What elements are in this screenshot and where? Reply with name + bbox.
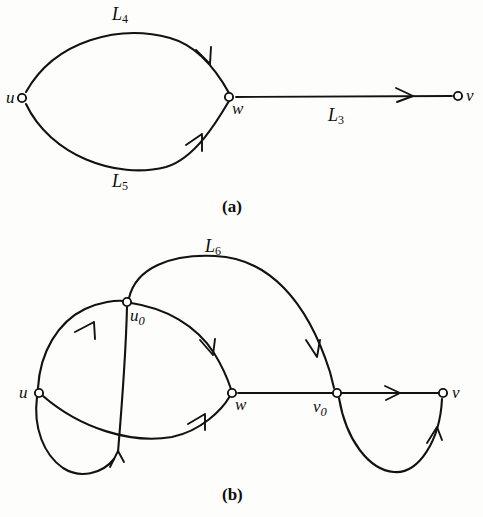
edge-lower-arc-to-w-path <box>43 396 230 439</box>
node-label-v-a: v <box>466 87 474 104</box>
node-u-a[interactable] <box>18 94 26 102</box>
panel-caption-b: (b) <box>222 486 243 503</box>
edge-label-L6: L6 <box>205 237 221 257</box>
node-label-u-b: u <box>19 384 28 401</box>
figure-root: u w v L4 L5 L3 (a) u u0 w v0 v L6 (b) <box>0 0 483 517</box>
panel-b-graph <box>35 256 447 474</box>
edge-label-L5: L5 <box>112 172 128 192</box>
edge-u-to-u0-arrowhead <box>75 322 95 339</box>
edge-L6-path <box>129 256 334 388</box>
panel-caption-a: (a) <box>222 198 242 215</box>
node-label-w-b: w <box>235 396 246 413</box>
node-v-b[interactable] <box>439 389 447 397</box>
edge-u-lower-loop-path <box>36 397 114 474</box>
node-label-u-a: u <box>6 89 15 106</box>
edge-L3-path <box>236 96 452 97</box>
edge-u0-vertical-path <box>118 307 127 452</box>
edge-L3-arrowhead <box>396 88 413 102</box>
edge-label-L3: L3 <box>328 106 344 126</box>
node-v-a[interactable] <box>454 92 462 100</box>
edge-L4-arrowhead <box>196 47 211 64</box>
node-u0-b[interactable] <box>123 298 131 306</box>
node-v0-b[interactable] <box>333 389 341 397</box>
edge-u0-to-w-path <box>131 303 231 389</box>
node-label-u0-b: u0 <box>130 307 145 327</box>
edge-v0-loop-to-v-path <box>339 398 442 472</box>
edge-L4-path <box>26 33 229 93</box>
node-label-v-b: v <box>452 384 460 401</box>
node-u-b[interactable] <box>35 389 43 397</box>
graph-canvas <box>0 0 483 517</box>
node-label-w-a: w <box>232 100 243 117</box>
edge-u0-to-w-arrowhead <box>200 339 215 355</box>
edge-u-to-u0-path <box>38 301 124 388</box>
edge-u-lower-loop-arrowhead <box>110 451 124 467</box>
node-label-v0-b: v0 <box>313 398 327 418</box>
edge-label-L4: L4 <box>112 5 128 25</box>
